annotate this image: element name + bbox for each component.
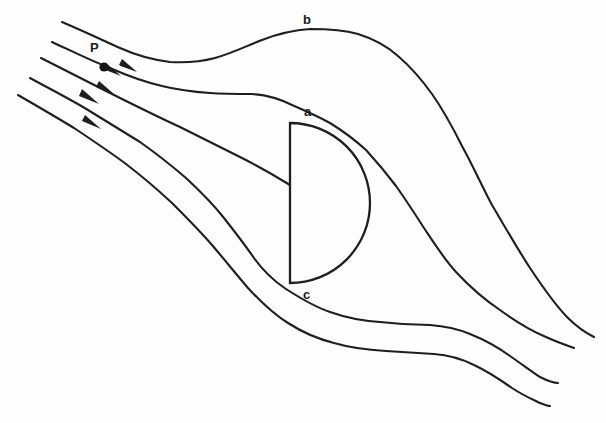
streamline-5 xyxy=(18,95,550,406)
flow-arrow-3 xyxy=(96,81,114,94)
label-stagnation-point: P xyxy=(90,41,99,54)
streamlines-group xyxy=(18,22,594,406)
label-body-top-a: a xyxy=(304,105,311,118)
semicircular-body-outline xyxy=(290,123,370,283)
flow-arrow-1b xyxy=(119,59,137,72)
label-body-bottom-c: c xyxy=(303,288,310,301)
flow-arrow-4 xyxy=(79,89,99,104)
label-upper-streamline-b: b xyxy=(303,13,311,26)
streamline-1 xyxy=(62,22,594,337)
streamline-3-stagnation xyxy=(41,58,290,185)
flow-figure: P b a c xyxy=(0,0,606,423)
arrowheads-group xyxy=(79,59,137,129)
flow-diagram-canvas xyxy=(0,0,606,423)
streamline-2 xyxy=(52,42,574,348)
stagnation-point-marker xyxy=(99,62,108,71)
